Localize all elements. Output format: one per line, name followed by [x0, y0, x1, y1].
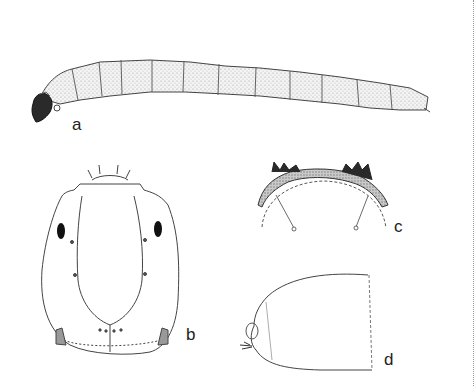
scientific-figure: a b	[0, 0, 476, 386]
panel-label-c: c	[394, 217, 403, 236]
larva-head	[32, 93, 52, 122]
panel-b-head-capsule	[42, 165, 179, 354]
panel-c-mentum	[258, 162, 388, 231]
panel-label-b: b	[186, 325, 195, 344]
panel-a-larva	[32, 60, 430, 122]
panel-label-d: d	[384, 350, 393, 369]
panel-label-a: a	[72, 115, 82, 134]
prolegs	[54, 105, 60, 111]
panel-d-terminal-segment	[240, 274, 372, 370]
figure-canvas: a b	[0, 0, 476, 386]
dotted-divider	[473, 0, 474, 386]
stemmata-right	[154, 221, 162, 237]
stemmata-left	[57, 223, 65, 239]
